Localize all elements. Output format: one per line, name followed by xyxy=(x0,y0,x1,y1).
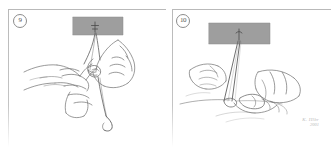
signature-year: 2001 xyxy=(302,122,319,127)
figure-panel-step-10: 10 xyxy=(166,0,331,149)
artist-signature: K. Hlbr 2001 xyxy=(302,117,319,127)
illustration-step-9 xyxy=(0,0,166,149)
figure-container: 9 xyxy=(0,0,331,149)
figure-panel-step-9: 9 xyxy=(0,0,166,149)
instrument-block xyxy=(73,17,123,35)
instrument-block xyxy=(209,23,270,44)
curved-needle xyxy=(104,116,112,131)
